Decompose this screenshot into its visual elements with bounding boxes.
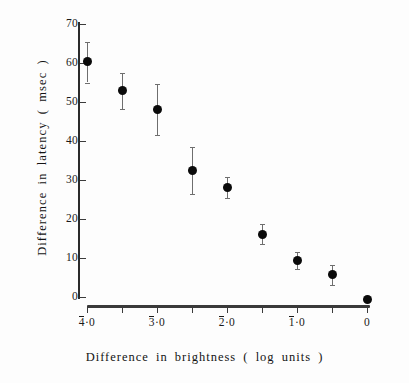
x-tick-mark <box>332 306 333 313</box>
negative-overbar-digit: 2 <box>219 317 225 329</box>
x-tick-mark <box>367 306 368 313</box>
negative-overbar-digit: 1 <box>289 317 295 329</box>
x-tick-label: 3·0 <box>132 317 182 329</box>
error-bar-cap <box>120 73 125 74</box>
error-bar-cap <box>155 135 160 136</box>
data-point <box>83 57 92 66</box>
y-tick-label: 30 <box>50 174 78 186</box>
data-point <box>188 166 197 175</box>
x-tick-label: 1·0 <box>272 317 322 329</box>
y-tick-mark <box>80 297 86 298</box>
x-axis-title: Difference in brightness ( log units ) <box>0 350 409 365</box>
figure-container: 010203040506070 4·03·02·01·00 Difference… <box>0 0 409 383</box>
x-tick-label: 0 <box>342 317 392 329</box>
x-tick-mark <box>192 306 193 313</box>
x-tick-mark <box>297 306 298 313</box>
error-bar-cap <box>190 194 195 195</box>
x-tick-mark <box>227 306 228 313</box>
error-bar-cap <box>85 42 90 43</box>
data-point <box>223 183 232 192</box>
y-tick-label: 10 <box>50 252 78 264</box>
x-axis-spine <box>87 305 370 308</box>
error-bar-cap <box>260 244 265 245</box>
y-axis-title: Difference in latency ( msec ) <box>35 33 50 283</box>
error-bar-cap <box>120 109 125 110</box>
x-tick-mark <box>87 306 88 313</box>
y-tick-label: 70 <box>50 18 78 30</box>
negative-overbar-digit: 4 <box>79 317 85 329</box>
data-point <box>153 105 162 114</box>
y-tick-label: 0 <box>50 291 78 303</box>
error-bar-cap <box>85 83 90 84</box>
y-tick-label: 40 <box>50 135 78 147</box>
error-bar-cap <box>225 198 230 199</box>
x-tick-mark <box>262 306 263 313</box>
x-tick-mark <box>122 306 123 313</box>
x-tick-label: 2·0 <box>202 317 252 329</box>
error-bar-cap <box>225 177 230 178</box>
x-tick-label: 4·0 <box>62 317 112 329</box>
error-bar-cap <box>190 147 195 148</box>
data-point <box>293 256 302 265</box>
data-point <box>258 230 267 239</box>
error-bar-cap <box>260 224 265 225</box>
error-bar-cap <box>295 252 300 253</box>
data-point <box>363 295 372 304</box>
error-bar-cap <box>330 265 335 266</box>
y-tick-label: 60 <box>50 57 78 69</box>
x-tick-mark <box>157 306 158 313</box>
error-bar-cap <box>330 285 335 286</box>
plot-area <box>78 24 370 297</box>
y-tick-label: 20 <box>50 213 78 225</box>
data-point <box>118 86 127 95</box>
negative-overbar-digit: 3 <box>149 317 155 329</box>
error-bar-cap <box>295 269 300 270</box>
error-bar-cap <box>155 84 160 85</box>
y-tick-label: 50 <box>50 96 78 108</box>
data-point <box>328 270 337 279</box>
